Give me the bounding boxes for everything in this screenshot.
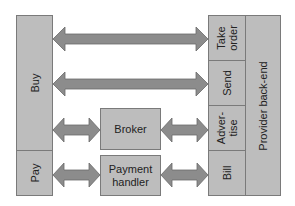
- double-arrow-icon: [53, 163, 100, 187]
- double-arrow-icon: [53, 72, 208, 96]
- double-arrow-icon: [53, 118, 100, 142]
- double-arrow-icon: [161, 118, 208, 142]
- connection-arrows: .arr { fill: #8c8c8c; stroke: #6a6a6a; s…: [0, 0, 295, 206]
- double-arrow-icon: [161, 163, 208, 187]
- double-arrow-icon: [53, 27, 208, 51]
